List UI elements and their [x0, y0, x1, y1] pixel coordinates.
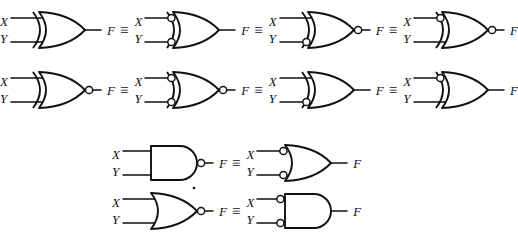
- xor-gate-x-inverted-output-inverted-symbol: [412, 4, 508, 56]
- xor-gate-y-inverted-symbol: [278, 64, 374, 116]
- xor-gate-x-inverted-body[interactable]: [412, 64, 508, 116]
- input-label-y: Y: [246, 213, 254, 226]
- input-label-y: Y: [134, 92, 142, 105]
- gate-input-labels: XY: [0, 15, 9, 45]
- row-2: XYF≡XYF≡XYF≡XYF: [0, 62, 453, 118]
- gate-input-labels: XY: [246, 148, 255, 178]
- input-label-x: X: [112, 196, 120, 209]
- xor-gate-y-inverted-output-inverted-symbol: [278, 4, 374, 56]
- xor-gate-both-inputs-inverted-output-inverted-symbol: [143, 64, 239, 116]
- output-label-f: F: [351, 205, 361, 218]
- xor-gate-both-inputs-inverted-output-inverted-body[interactable]: [143, 64, 239, 116]
- input-label-x: X: [134, 75, 142, 88]
- xor-gate-y-inverted-output-inverted[interactable]: XYF: [269, 4, 384, 56]
- xnor-gate-body[interactable]: [9, 64, 105, 116]
- input-label-x: X: [269, 75, 277, 88]
- or-gate-both-inputs-inverted-symbol: [255, 137, 351, 189]
- input-label-y: Y: [403, 92, 411, 105]
- xor-gate-x-inverted[interactable]: XYF: [403, 64, 518, 116]
- input-label-y: Y: [112, 213, 120, 226]
- xor-gate-symbol: [9, 4, 105, 56]
- nand-gate[interactable]: XYF: [112, 137, 227, 189]
- xor-gate-both-inputs-inverted[interactable]: XYF: [134, 4, 249, 56]
- input-label-x: X: [246, 196, 254, 209]
- input-label-x: X: [0, 75, 8, 88]
- output-label-f: F: [508, 24, 518, 37]
- input-label-y: Y: [0, 32, 8, 45]
- xor-gate-both-inputs-inverted-body[interactable]: [143, 4, 239, 56]
- xor-gate-y-inverted-output-inverted-body[interactable]: [278, 4, 374, 56]
- input-label-x: X: [112, 148, 120, 161]
- output-label-f: F: [105, 84, 115, 97]
- xor-gate-y-inverted[interactable]: XYF: [269, 64, 384, 116]
- xor-gate-y-inverted-body[interactable]: [278, 64, 374, 116]
- equivalence-symbol: ≡: [227, 156, 246, 171]
- output-label-f: F: [105, 24, 115, 37]
- output-label-f: F: [508, 84, 518, 97]
- input-label-y: Y: [0, 92, 8, 105]
- and-gate-both-inputs-inverted[interactable]: XYF: [246, 185, 361, 237]
- xor-gate-body[interactable]: [9, 4, 105, 56]
- input-label-y: Y: [246, 165, 254, 178]
- xor-gate-both-inputs-inverted-symbol: [143, 4, 239, 56]
- output-label-f: F: [239, 84, 249, 97]
- xor-gate-x-inverted-symbol: [412, 64, 508, 116]
- output-label-f: F: [351, 157, 361, 170]
- output-label-f: F: [374, 24, 384, 37]
- equivalence-symbol: ≡: [384, 83, 403, 98]
- xnor-gate[interactable]: XYF: [0, 64, 115, 116]
- output-label-f: F: [217, 157, 227, 170]
- xnor-gate-symbol: [9, 64, 105, 116]
- gate-input-labels: XY: [0, 75, 9, 105]
- equivalence-symbol: ≡: [115, 83, 134, 98]
- gate-input-labels: XY: [269, 75, 278, 105]
- output-label-f: F: [374, 84, 384, 97]
- gate-input-labels: XY: [112, 196, 121, 226]
- and-gate-both-inputs-inverted-body[interactable]: [255, 185, 351, 237]
- nor-gate[interactable]: XYF: [112, 185, 227, 237]
- nand-gate-symbol: [121, 137, 217, 189]
- xor-gate-both-inputs-inverted-output-inverted[interactable]: XYF: [134, 64, 249, 116]
- output-label-f: F: [217, 205, 227, 218]
- input-label-y: Y: [269, 32, 277, 45]
- gate-input-labels: XY: [403, 15, 412, 45]
- input-label-x: X: [269, 15, 277, 28]
- xor-gate-x-inverted-output-inverted[interactable]: XYF: [403, 4, 518, 56]
- input-label-y: Y: [269, 92, 277, 105]
- equivalence-symbol: ≡: [249, 23, 268, 38]
- row-1: XYF≡XYF≡XYF≡XYF: [0, 2, 453, 58]
- nor-gate-body[interactable]: [121, 185, 217, 237]
- gate-input-labels: XY: [134, 75, 143, 105]
- row-3: XYF≡XYF: [0, 136, 453, 190]
- gate-input-labels: XY: [269, 15, 278, 45]
- output-label-f: F: [239, 24, 249, 37]
- nor-gate-symbol: [121, 185, 217, 237]
- equivalence-symbol: ≡: [384, 23, 403, 38]
- equivalence-symbol: ≡: [249, 83, 268, 98]
- input-label-x: X: [403, 75, 411, 88]
- or-gate-both-inputs-inverted[interactable]: XYF: [246, 137, 361, 189]
- gate-input-labels: XY: [112, 148, 121, 178]
- equivalence-symbol: ≡: [227, 204, 246, 219]
- input-label-y: Y: [403, 32, 411, 45]
- input-label-x: X: [246, 148, 254, 161]
- or-gate-both-inputs-inverted-body[interactable]: [255, 137, 351, 189]
- input-label-y: Y: [112, 165, 120, 178]
- equivalence-symbol: ≡: [115, 23, 134, 38]
- xor-gate-x-inverted-output-inverted-body[interactable]: [412, 4, 508, 56]
- gate-input-labels: XY: [403, 75, 412, 105]
- input-label-y: Y: [134, 32, 142, 45]
- input-label-x: X: [403, 15, 411, 28]
- and-gate-both-inputs-inverted-symbol: [255, 185, 351, 237]
- input-label-x: X: [0, 15, 8, 28]
- xor-gate[interactable]: XYF: [0, 4, 115, 56]
- gate-input-labels: XY: [134, 15, 143, 45]
- input-label-x: X: [134, 15, 142, 28]
- nand-gate-body[interactable]: [121, 137, 217, 189]
- gate-input-labels: XY: [246, 196, 255, 226]
- row-4: XYF≡XYF: [0, 186, 453, 236]
